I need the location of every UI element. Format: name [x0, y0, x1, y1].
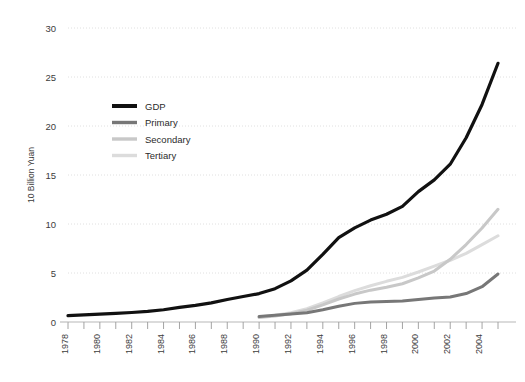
- y-tick-label: 15: [45, 170, 56, 181]
- y-axis-title: 10 Billion Yuan: [26, 147, 36, 203]
- legend-label-primary: Primary: [145, 117, 178, 128]
- chart-legend: GDPPrimarySecondaryTertiary: [112, 101, 191, 162]
- x-tick-label: 1978: [60, 334, 70, 354]
- y-tick-label: 30: [45, 23, 56, 34]
- x-tick-label: 2004: [474, 334, 484, 354]
- legend-label-secondary: Secondary: [145, 134, 191, 145]
- y-tick-label: 25: [45, 72, 56, 83]
- x-tick-label: 1982: [124, 334, 134, 354]
- x-tick-label: 1998: [379, 334, 389, 354]
- gridlines: [68, 28, 516, 273]
- axes: [60, 322, 516, 329]
- y-axis-title-text: 10 Billion Yuan: [26, 147, 36, 203]
- y-axis-tick-labels: 051015202530: [45, 23, 56, 328]
- chart-canvas: 051015202530 197819801982198419861988199…: [0, 0, 525, 382]
- x-tick-label: 1992: [283, 334, 293, 354]
- x-tick-label: 1988: [219, 334, 229, 354]
- x-tick-label: 1994: [315, 334, 325, 354]
- x-tick-label: 2002: [442, 334, 452, 354]
- y-tick-label: 10: [45, 219, 56, 230]
- series-line-gdp: [68, 63, 498, 315]
- y-tick-label: 0: [51, 317, 56, 328]
- data-series: [68, 63, 498, 317]
- legend-label-tertiary: Tertiary: [145, 150, 176, 161]
- x-tick-label: 1996: [347, 334, 357, 354]
- y-tick-label: 20: [45, 121, 56, 132]
- x-tick-label: 2000: [410, 334, 420, 354]
- line-chart: 051015202530 197819801982198419861988199…: [0, 0, 525, 382]
- y-tick-label: 5: [51, 268, 56, 279]
- legend-label-gdp: GDP: [145, 101, 166, 112]
- x-axis-tick-labels: 1978198019821984198619881990199219941996…: [60, 334, 484, 354]
- x-tick-label: 1990: [251, 334, 261, 354]
- x-tick-label: 1986: [187, 334, 197, 354]
- x-tick-label: 1984: [156, 334, 166, 354]
- x-tick-label: 1980: [92, 334, 102, 354]
